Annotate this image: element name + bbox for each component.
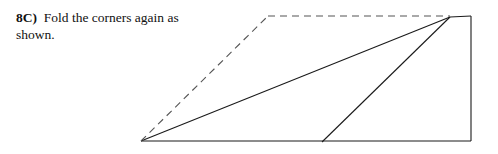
top-edge-segment (450, 16, 471, 17)
long-fold-line (141, 17, 450, 141)
dashed-diagonal-guide (141, 16, 268, 141)
diagram-page: 8C) Fold the corners again as shown. (0, 0, 498, 154)
folding-figure (0, 0, 498, 154)
short-fold-line (322, 17, 450, 142)
